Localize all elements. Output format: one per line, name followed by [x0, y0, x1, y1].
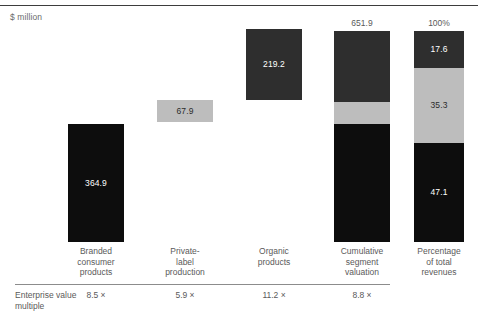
category-label-line: Private- — [157, 246, 213, 257]
bar-organic-products[interactable]: 219.2 — [246, 29, 302, 100]
bar-column-percentage-of-total-revenues: 100% 17.6 35.3 47.1 — [414, 20, 464, 242]
bar-total-label-percentage: 100% — [414, 18, 464, 28]
category-label-line: revenues — [406, 267, 472, 278]
category-label-line: products — [68, 267, 124, 278]
bar-total-label-cumulative: 651.9 — [334, 18, 390, 28]
category-label-cumulative-segment-valuation: Cumulative segment valuation — [330, 246, 394, 278]
category-label-line: of total — [406, 257, 472, 268]
bar-segment-label-mid: 35.3 — [431, 101, 448, 110]
chart-container: $ million 364.9 67.9 219.2 — [0, 0, 478, 316]
bar-value-label: 219.2 — [263, 60, 285, 69]
bar-cumulative-segment-valuation[interactable] — [334, 31, 390, 242]
category-label-branded-consumer-products: Branded consumer products — [68, 246, 124, 278]
bar-column-organic-products: 219.2 — [246, 20, 302, 242]
bar-column-cumulative-segment-valuation: 651.9 — [334, 20, 390, 242]
category-label-line: Percentage — [406, 246, 472, 257]
multiple-value-branded-consumer-products: 8.5 × — [68, 290, 124, 301]
category-label-private-label-production: Private- label production — [157, 246, 213, 278]
category-label-line: valuation — [330, 267, 394, 278]
plot-area: 364.9 67.9 219.2 651.9 — [0, 20, 478, 242]
bar-segment-label-bottom: 47.1 — [431, 188, 448, 197]
category-label-line: consumer — [68, 257, 124, 268]
bar-segment-organic-percent: 17.6 — [414, 31, 464, 68]
category-label-line: production — [157, 267, 213, 278]
bar-segment-organic-share — [334, 31, 390, 102]
bar-segment-private-label-percent: 35.3 — [414, 68, 464, 143]
bar-segment-branded-percent: 47.1 — [414, 143, 464, 242]
category-label-line: Branded — [68, 246, 124, 257]
category-label-organic-products: Organic products — [246, 246, 302, 267]
header-divider — [0, 5, 478, 6]
category-label-line: Cumulative — [330, 246, 394, 257]
bar-segment-branded-share — [334, 124, 390, 242]
category-label-line: label — [157, 257, 213, 268]
bar-column-private-label-production: 67.9 — [157, 20, 213, 242]
bar-branded-consumer-products[interactable]: 364.9 — [68, 124, 124, 242]
bar-segment-private-label: 67.9 — [157, 100, 213, 122]
bar-private-label-production[interactable]: 67.9 — [157, 100, 213, 122]
multiple-value-organic-products: 11.2 × — [246, 290, 302, 301]
bar-value-label: 67.9 — [177, 107, 194, 116]
footer-divider — [15, 284, 390, 285]
bar-value-label: 364.9 — [85, 179, 107, 188]
category-label-line: products — [246, 257, 302, 268]
category-label-line: Organic — [246, 246, 302, 257]
bar-percentage-of-total-revenues[interactable]: 17.6 35.3 47.1 — [414, 31, 464, 242]
bar-segment-private-label-share — [334, 102, 390, 124]
multiple-value-cumulative-segment-valuation: 8.8 × — [334, 290, 390, 301]
bar-column-branded-consumer-products: 364.9 — [68, 20, 124, 242]
bar-segment-organic: 219.2 — [246, 29, 302, 100]
category-label-percentage-of-total-revenues: Percentage of total revenues — [406, 246, 472, 278]
bar-segment-label-top: 17.6 — [431, 45, 448, 54]
footer-row-label-line: multiple — [15, 301, 95, 312]
bar-segment-branded: 364.9 — [68, 124, 124, 242]
category-label-line: segment — [330, 257, 394, 268]
category-axis-labels: Branded consumer products Private- label… — [0, 246, 478, 282]
multiple-value-private-label-production: 5.9 × — [157, 290, 213, 301]
